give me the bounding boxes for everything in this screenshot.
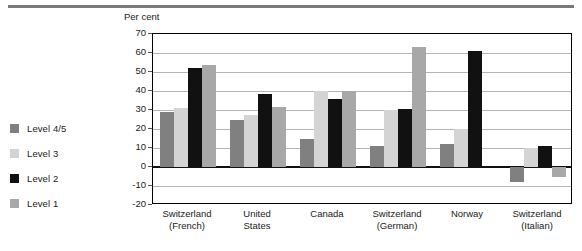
bar <box>244 115 258 167</box>
bar <box>384 110 398 167</box>
x-axis-category-label: Switzerland(German) <box>362 208 432 232</box>
x-axis-category-label-line: Norway <box>432 208 502 220</box>
bar <box>160 112 174 167</box>
bar <box>174 108 188 167</box>
y-axis-tick-label: 0 <box>112 160 146 171</box>
y-axis-tick-label: -20 <box>112 198 146 209</box>
x-axis-category-label: Switzerland(Italian) <box>502 208 572 232</box>
x-axis-category-label-line: Switzerland <box>502 208 572 220</box>
bar <box>328 99 342 167</box>
x-axis-category-label: Norway <box>432 208 502 220</box>
y-axis-tick-label: 20 <box>112 122 146 133</box>
y-axis-tickmark <box>148 204 152 205</box>
x-axis-category-label-line: United <box>222 208 292 220</box>
y-axis-tick-label: 10 <box>112 141 146 152</box>
bar-chart: Per cent 706050403020100-10-20 Switzerla… <box>0 0 582 251</box>
y-axis-tick-label: 70 <box>112 27 146 38</box>
y-axis-tick-label: 30 <box>112 103 146 114</box>
y-axis-tick-label: 40 <box>112 84 146 95</box>
bar <box>524 148 538 167</box>
plot-area <box>152 33 572 204</box>
bar <box>440 144 454 167</box>
bar <box>370 146 384 167</box>
x-axis-category-label-line: (French) <box>152 220 222 232</box>
bar <box>202 65 216 167</box>
bar <box>300 139 314 168</box>
bar <box>314 91 328 167</box>
x-axis-category-label-line: States <box>222 220 292 232</box>
x-axis-labels: Switzerland(French)UnitedStatesCanadaSwi… <box>152 208 572 250</box>
y-axis-tick-label: -10 <box>112 179 146 190</box>
bar <box>468 51 482 167</box>
bar <box>538 146 552 167</box>
x-axis-category-label-line: (Italian) <box>502 220 572 232</box>
x-axis-category-label: UnitedStates <box>222 208 292 232</box>
bar <box>258 94 272 167</box>
bar <box>510 167 524 182</box>
bar <box>272 107 286 167</box>
x-axis-category-label: Canada <box>292 208 362 220</box>
x-axis-category-label: Switzerland(French) <box>152 208 222 232</box>
y-axis-tick-label: 60 <box>112 46 146 57</box>
x-axis-category-label-line: Canada <box>292 208 362 220</box>
bar <box>412 47 426 167</box>
x-axis-category-label-line: Switzerland <box>362 208 432 220</box>
bar <box>454 129 468 167</box>
y-axis-tick-label: 50 <box>112 65 146 76</box>
bar <box>398 109 412 167</box>
bar <box>230 120 244 167</box>
bars-layer <box>153 34 571 203</box>
bar <box>342 91 356 167</box>
x-axis-category-label-line: Switzerland <box>152 208 222 220</box>
bar <box>552 167 566 177</box>
bar <box>188 68 202 167</box>
x-axis-category-label-line: (German) <box>362 220 432 232</box>
